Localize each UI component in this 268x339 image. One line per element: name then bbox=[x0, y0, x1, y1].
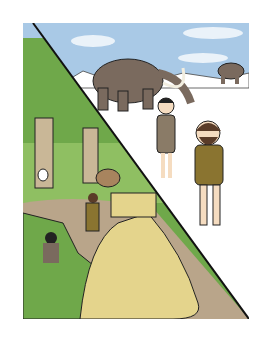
illustration-panel bbox=[23, 23, 249, 319]
illustration-svg bbox=[23, 23, 249, 319]
